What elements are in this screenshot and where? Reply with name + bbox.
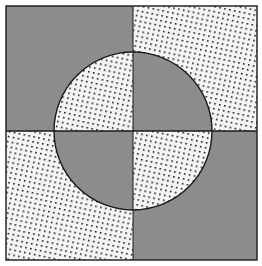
figure-canvas bbox=[0, 0, 262, 266]
checkerboard-circle-figure bbox=[0, 0, 262, 266]
